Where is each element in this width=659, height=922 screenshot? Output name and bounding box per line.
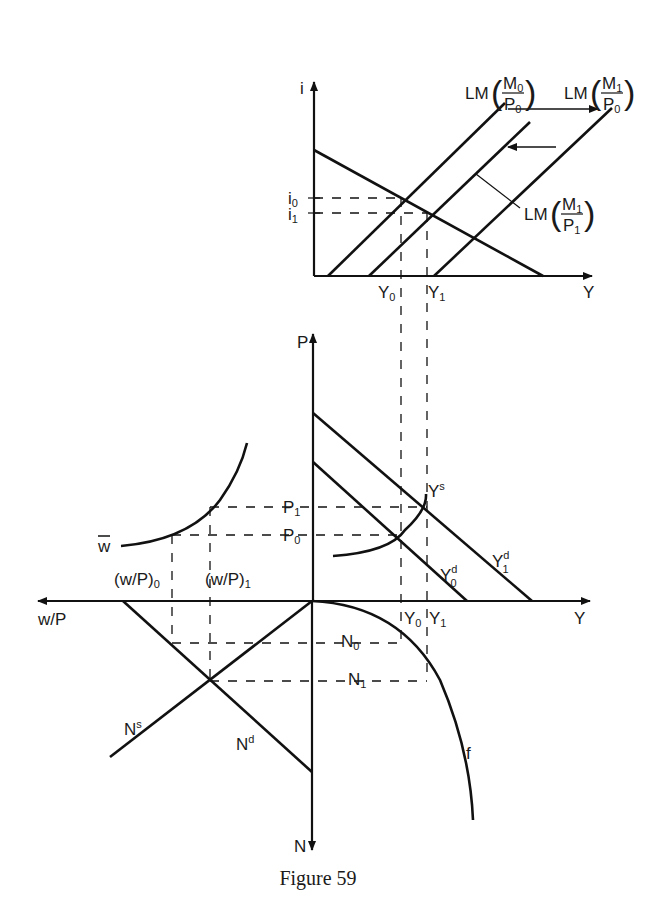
figure-caption: Figure 59 (279, 867, 356, 890)
yd1-label: Yd1 (492, 549, 509, 575)
svg-text:P0: P0 (603, 95, 620, 115)
ys-curve (333, 494, 426, 556)
ys-label: Ys (428, 480, 445, 501)
i-axis-label: i (300, 79, 304, 98)
n-axis-label: N (294, 837, 306, 856)
ns-label: Ns (124, 718, 142, 739)
y1-bottom-label: Y1 (429, 609, 446, 629)
is-lm-panel: i Y i0 i1 Y0 Y1 LM ( M0 P0 ) (288, 73, 635, 303)
lm-m1-p0-curve (434, 108, 612, 276)
svg-text:(: ( (590, 73, 602, 111)
labor-panel: N N0 N1 Y0 Y1 Ns Nd f (110, 601, 473, 856)
nd-curve (123, 601, 312, 772)
lm-m0-p0-curve (328, 103, 505, 276)
y-axis-main-label: Y (574, 609, 585, 628)
svg-text:): ) (525, 73, 536, 111)
svg-text:LM: LM (465, 84, 489, 103)
lm-m0-p0-label: LM ( M0 P0 ) (465, 73, 536, 115)
as-ad-panel: P P1 P0 Ys Yd0 Yd1 (172, 333, 532, 601)
svg-text:P0: P0 (504, 95, 521, 115)
svg-text:): ) (624, 73, 635, 111)
svg-text:M0: M0 (503, 74, 523, 94)
production-function-f-curve (312, 601, 473, 820)
y1-top-label: Y1 (428, 283, 445, 303)
w-bar-curve (121, 443, 247, 546)
svg-text:M1: M1 (602, 74, 622, 94)
wp-axis-label: w/P (37, 610, 66, 629)
w-bar-label: w (97, 537, 111, 556)
wp0-label: (w/P)0 (114, 570, 160, 590)
lm-m1-p1-curve (369, 122, 530, 276)
p0-label: P0 (283, 526, 300, 546)
nd-label: Nd (236, 733, 254, 754)
svg-text:LM: LM (524, 205, 548, 224)
wp1-label: (w/P)1 (205, 570, 251, 590)
y0-bottom-label: Y0 (404, 609, 421, 629)
svg-text:LM: LM (564, 84, 588, 103)
svg-text:(: ( (491, 73, 503, 111)
lm-m1-p1-leader (476, 174, 520, 208)
y0-top-label: Y0 (378, 283, 395, 303)
p-axis-label: P (297, 333, 308, 352)
svg-text:): ) (584, 194, 595, 232)
n0-label: N0 (341, 632, 359, 652)
p1-label: P1 (283, 498, 300, 518)
is-lm-as-ad-diagram: i Y i0 i1 Y0 Y1 LM ( M0 P0 ) (0, 0, 659, 922)
svg-text:M1: M1 (562, 195, 582, 215)
ns-curve (110, 601, 312, 757)
n1-label: N1 (348, 670, 366, 690)
svg-text:(: ( (550, 194, 562, 232)
f-label: f (466, 744, 471, 763)
lm-m1-p1-label: LM ( M1 P1 ) (524, 194, 595, 236)
svg-text:P1: P1 (563, 216, 580, 236)
y-axis-top-label: Y (583, 283, 594, 302)
